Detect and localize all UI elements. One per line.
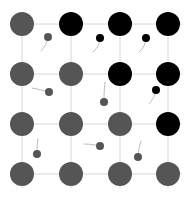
particle-tails <box>32 37 156 157</box>
large-site-black <box>59 12 83 36</box>
small-particle-black <box>152 86 160 94</box>
large-site-gray <box>156 162 180 186</box>
small-particle-gray <box>44 33 52 41</box>
small-particle-gray <box>45 88 53 96</box>
small-particle-gray <box>100 98 108 106</box>
large-lattice-sites <box>10 12 180 186</box>
large-site-black <box>156 112 180 136</box>
large-site-gray <box>10 62 34 86</box>
large-site-gray <box>10 12 34 36</box>
large-site-gray <box>10 162 34 186</box>
small-particle-gray <box>33 150 41 158</box>
large-site-gray <box>59 112 83 136</box>
grid-lines <box>22 24 182 188</box>
small-particle-gray <box>134 153 142 161</box>
large-site-black <box>156 62 180 86</box>
lattice-diagram <box>0 0 189 202</box>
lattice-diagram-svg <box>0 0 189 202</box>
large-site-black <box>108 12 132 36</box>
small-particle-gray <box>96 142 104 150</box>
large-site-gray <box>59 162 83 186</box>
small-particle-black <box>142 34 150 42</box>
small-particle-black <box>96 34 104 42</box>
large-site-gray <box>59 62 83 86</box>
large-site-gray <box>108 112 132 136</box>
large-site-gray <box>108 162 132 186</box>
large-site-black <box>108 62 132 86</box>
large-site-gray <box>10 112 34 136</box>
large-site-black <box>156 12 180 36</box>
